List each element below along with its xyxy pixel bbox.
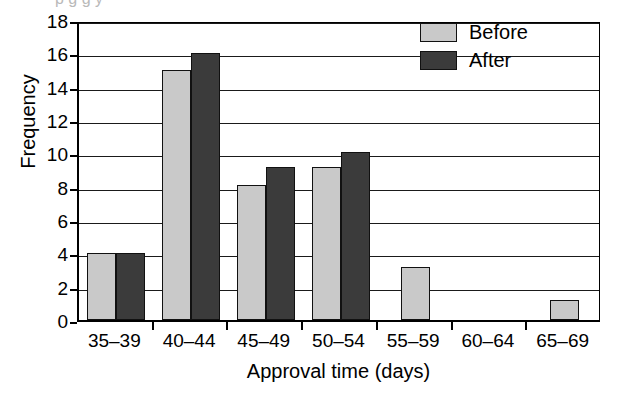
y-tick-14 [70,89,77,91]
y-tick-2 [70,289,77,291]
gridline-12 [79,123,599,124]
legend-swatch-after [420,51,457,70]
x-tick-6 [525,322,527,330]
y-tick-0 [70,322,77,324]
x-tick-label-60–64: 60–64 [451,330,526,352]
bar-before-65–69 [550,300,579,320]
bar-before-55–59 [401,267,430,320]
y-tick-label-8: 8 [42,179,68,198]
bar-after-35–39 [116,253,145,320]
y-tick-label-12: 12 [42,112,68,131]
y-tick-label-2: 2 [42,279,68,298]
bar-after-40–44 [191,53,220,320]
plot-area [77,22,600,322]
bar-before-35–39 [87,253,116,320]
x-tick-3 [301,322,303,330]
y-tick-10 [70,155,77,157]
y-tick-label-18: 18 [42,12,68,31]
x-tick-label-55–59: 55–59 [376,330,451,352]
y-tick-label-0: 0 [42,312,68,331]
legend-label-before: Before [469,22,528,42]
bar-chart-figure: p g g y Frequency 024681012141618 35–394… [0,0,625,401]
bar-before-45–49 [237,185,266,320]
x-tick-4 [376,322,378,330]
y-axis-title: Frequency [17,32,40,212]
y-tick-4 [70,255,77,257]
x-tick-label-45–49: 45–49 [226,330,301,352]
y-tick-6 [70,222,77,224]
y-tick-12 [70,122,77,124]
cropped-caption-sliver: p g g y [55,0,475,7]
bar-after-45–49 [266,167,295,320]
x-tick-label-65–69: 65–69 [525,330,600,352]
y-tick-8 [70,189,77,191]
y-tick-label-10: 10 [42,145,68,164]
y-tick-18 [70,22,77,24]
legend-entry-after: After [420,48,511,72]
x-tick-1 [152,322,154,330]
x-axis-title: Approval time (days) [77,360,600,383]
x-tick-label-35–39: 35–39 [77,330,152,352]
y-tick-label-14: 14 [42,79,68,98]
y-tick-label-4: 4 [42,245,68,264]
x-tick-5 [451,322,453,330]
y-tick-label-16: 16 [42,45,68,64]
y-tick-16 [70,55,77,57]
legend-swatch-before [420,23,457,42]
bar-after-50–54 [341,152,370,320]
x-tick-label-40–44: 40–44 [152,330,227,352]
bar-before-40–44 [162,70,191,320]
legend-entry-before: Before [420,20,528,44]
x-tick-label-50–54: 50–54 [301,330,376,352]
gridline-10 [79,156,599,157]
y-tick-label-6: 6 [42,212,68,231]
gridline-16 [79,56,599,57]
legend-label-after: After [469,50,511,70]
bar-before-50–54 [312,167,341,320]
gridline-14 [79,90,599,91]
x-tick-2 [226,322,228,330]
